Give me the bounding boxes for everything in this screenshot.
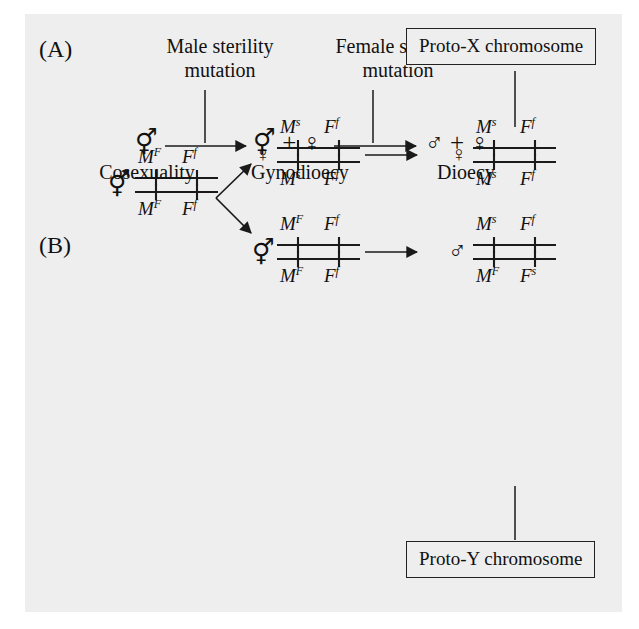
proto-y-callout-box: Proto-Y chromosome xyxy=(406,541,595,578)
genotype-proto-y-top-locus-1: Ms xyxy=(476,212,497,235)
genotype-founder-top-locus-2: Ff xyxy=(182,145,197,168)
genotype-mid-cosexual-top-locus-2: Ff xyxy=(324,212,339,235)
genotype-proto-y-top-locus-2: Ff xyxy=(520,212,535,235)
figure-canvas: (A) Male sterility mutation Female steri… xyxy=(25,14,622,612)
genotype-mid-female-bottom-locus-1: Ms xyxy=(280,167,301,190)
chromosome-pair-proto-y xyxy=(473,237,556,267)
genotype-founder-top-locus-1: MF xyxy=(138,145,161,168)
genotype-mid-cosexual-bottom-locus-1: MF xyxy=(280,264,303,287)
genotype-proto-x-sex-symbol: ♀ xyxy=(451,144,467,165)
chromosome-pair-mid-cosexual xyxy=(277,237,360,267)
genotype-proto-y-bottom-locus-1: MF xyxy=(476,264,499,287)
genotype-mid-cosexual-sex-symbol: ⚥ xyxy=(252,240,275,265)
genotype-mid-female-bottom-locus-2: Ff xyxy=(324,167,339,190)
panel-b-branch-down xyxy=(216,198,251,233)
genotype-proto-x-bottom-locus-2: Ff xyxy=(520,167,535,190)
genotype-proto-x-top-locus-2: Ff xyxy=(520,115,535,138)
proto-x-callout-box: Proto-X chromosome xyxy=(406,28,596,65)
genotype-mid-cosexual-top-locus-1: MF xyxy=(280,212,303,235)
genotype-founder-sex-symbol: ⚥ xyxy=(108,172,131,197)
genotype-founder-bottom-locus-2: Ff xyxy=(182,197,197,220)
genotype-founder-bottom-locus-1: MF xyxy=(138,197,161,220)
panel-b-tag: (B) xyxy=(39,232,71,259)
genotype-proto-y-bottom-locus-2: Fs xyxy=(520,264,536,287)
genotype-proto-x-bottom-locus-1: Ms xyxy=(476,167,497,190)
proto-x-callout-text: Proto-X chromosome xyxy=(419,35,583,56)
proto-y-callout-text: Proto-Y chromosome xyxy=(419,548,582,569)
genotype-mid-female-top-locus-2: Ff xyxy=(324,115,339,138)
genotype-proto-x-top-locus-1: Ms xyxy=(476,115,497,138)
genotype-mid-female-top-locus-1: Ms xyxy=(280,115,301,138)
genotype-proto-y-sex-symbol: ♂ xyxy=(448,238,467,263)
panel-a-connectors xyxy=(25,14,622,612)
genotype-mid-cosexual-bottom-locus-2: Ff xyxy=(324,264,339,287)
genotype-mid-female-sex-symbol: ♀ xyxy=(255,144,271,165)
